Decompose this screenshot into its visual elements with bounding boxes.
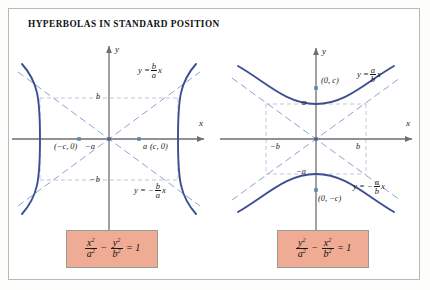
left-asymptote-upper-den: a: [151, 70, 157, 80]
right-y-axis-label: y: [322, 46, 326, 56]
right-x-axis-label: x: [406, 118, 410, 128]
right-standard-equation-box: y2a2 − x2b2 = 1: [277, 230, 369, 268]
left-eq-den2: b2: [111, 248, 123, 259]
left-asymptote-lower-var: x: [162, 185, 166, 195]
left-hyperbola-plot: [6, 36, 216, 236]
left-asymptote-lower-num: b: [155, 182, 161, 191]
right-asymptote-upper-den: b: [370, 74, 376, 84]
left-eq-operator: −: [100, 242, 107, 253]
right-asymptote-lower-equation: y = −abx: [353, 178, 385, 197]
left-asymptote-lower-equation: y = −bax: [134, 182, 166, 201]
right-tick-neg-a: −a: [296, 167, 306, 176]
left-tick-pos-b: b: [96, 92, 100, 101]
left-tick-neg-b: −b: [90, 175, 100, 184]
left-asymptote-upper-num: b: [151, 62, 157, 71]
left-eq-rhs: = 1: [126, 242, 140, 253]
left-asymptote-upper-equation: y =bax: [138, 62, 162, 81]
right-asymptote-lower-den: b: [374, 186, 380, 196]
left-asymptote-upper-lhs: y =: [138, 65, 150, 75]
left-x-axis-label: x: [199, 118, 203, 128]
right-standard-equation: y2a2 − x2b2 = 1: [295, 238, 352, 259]
right-eq-operator: −: [311, 242, 318, 253]
right-tick-pos-a: a: [302, 98, 306, 107]
right-focus-label-positive: (0, c): [321, 76, 339, 85]
left-standard-equation-box: x2a2 − y2b2 = 1: [66, 230, 158, 268]
left-y-axis-label: y: [115, 44, 119, 54]
left-focus-label-negative: (−c, 0): [54, 142, 77, 151]
left-eq-den1: a2: [85, 248, 97, 259]
left-tick-pos-a: a: [143, 142, 147, 151]
left-asymptote-upper-var: x: [158, 65, 162, 75]
left-asymptote-lower-den: a: [155, 190, 161, 200]
right-eq-den1: a2: [296, 248, 308, 259]
left-tick-neg-a: −a: [85, 142, 95, 151]
right-hyperbola-plot: [214, 36, 424, 236]
right-asymptote-upper-equation: y =abx: [357, 66, 381, 85]
right-focus-label-negative: (0, −c): [318, 194, 341, 203]
left-focus-label-positive: (c, 0): [150, 142, 168, 151]
figure-title: HYPERBOLAS IN STANDARD POSITION: [28, 19, 220, 29]
left-standard-equation: x2a2 − y2b2 = 1: [84, 238, 141, 259]
right-asymptote-lower-num: a: [374, 178, 380, 187]
right-eq-rhs: = 1: [337, 242, 351, 253]
right-asymptote-lower-var: x: [381, 181, 385, 191]
left-asymptote-lower-lhs: y = −: [134, 185, 154, 195]
right-tick-neg-b: −b: [270, 142, 280, 151]
right-asymptote-upper-lhs: y =: [357, 69, 369, 79]
right-asymptote-lower-lhs: y = −: [353, 181, 373, 191]
right-tick-pos-b: b: [356, 142, 360, 151]
right-asymptote-upper-var: x: [377, 69, 381, 79]
right-eq-den2: b2: [322, 248, 334, 259]
figure-root: HYPERBOLAS IN STANDARD POSITION: [0, 0, 430, 290]
right-asymptote-upper-num: a: [370, 66, 376, 75]
